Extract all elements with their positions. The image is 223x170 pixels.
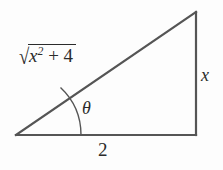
- triangle-canvas: [0, 0, 223, 170]
- label-adjacent-side: 2: [98, 140, 108, 159]
- radicand-base: x: [29, 45, 37, 66]
- angle-arc: [61, 88, 82, 135]
- label-angle-theta: θ: [82, 99, 91, 117]
- label-opposite-side: x: [201, 66, 209, 84]
- radicand-group: x2 + 4: [28, 44, 76, 65]
- side-hypotenuse-line: [16, 12, 196, 135]
- radicand-tail: + 4: [43, 45, 73, 66]
- triangle-figure: √x2 + 4 x 2 θ: [0, 0, 223, 170]
- label-hypotenuse: √x2 + 4: [18, 44, 76, 68]
- radical-icon: √: [19, 46, 29, 68]
